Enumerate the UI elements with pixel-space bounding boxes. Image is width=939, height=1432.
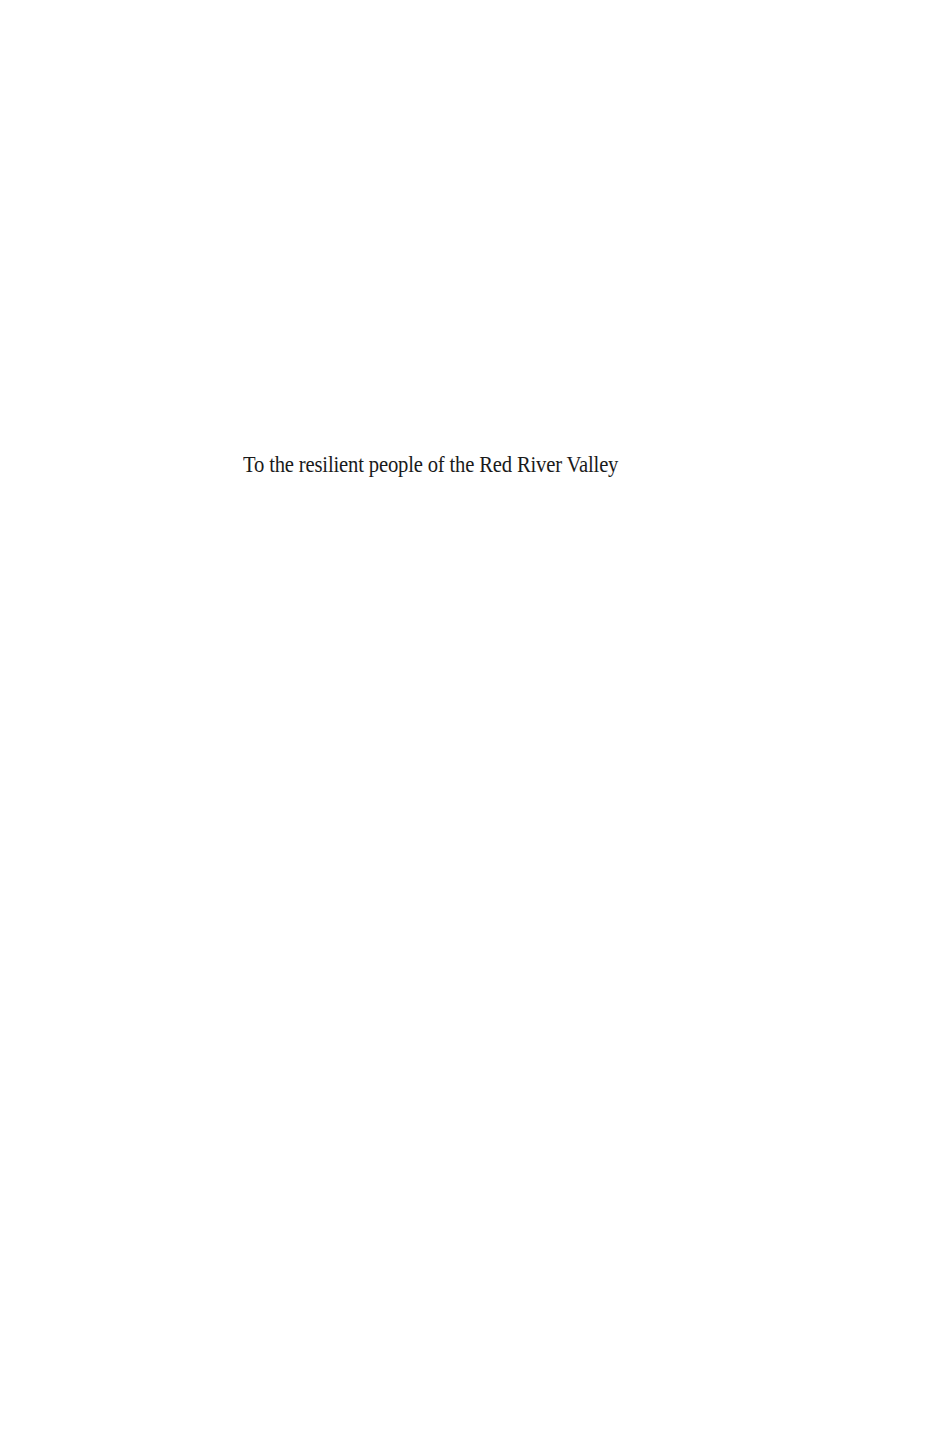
dedication-text: To the resilient people of the Red River… [243, 449, 587, 479]
book-page: To the resilient people of the Red River… [0, 0, 939, 1432]
